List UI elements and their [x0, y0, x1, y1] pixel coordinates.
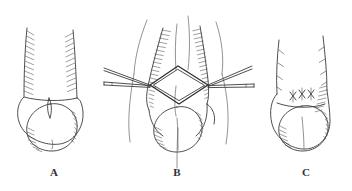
panel-b: B	[104, 16, 254, 178]
suture-x-3	[308, 88, 314, 100]
suture-x-1	[290, 90, 296, 102]
vein-markings-left	[277, 50, 284, 90]
body-contour-right-outer	[207, 104, 215, 124]
flap-hatching-right	[193, 26, 209, 104]
forceps-upper-right	[208, 66, 252, 87]
vein-markings-right	[319, 47, 327, 85]
suture-x-2	[299, 88, 305, 100]
skin-margin	[271, 90, 330, 149]
glans-outline	[279, 106, 328, 151]
flap-hatching-left	[147, 28, 171, 110]
midline-slit	[48, 98, 50, 118]
midline-slit-mirror	[49, 98, 51, 118]
suture-group	[290, 88, 314, 102]
shaft-midline	[175, 24, 177, 70]
figure-container: A	[0, 0, 352, 191]
shaft-outline	[277, 36, 327, 94]
traction-sutures	[129, 16, 228, 168]
surgical-illustration: A	[0, 0, 352, 191]
glans-midline	[302, 117, 304, 149]
panel-label-a: A	[50, 166, 58, 178]
lateral-hatching-right	[66, 33, 77, 92]
forceps-lower-right	[208, 84, 254, 88]
panel-label-c: C	[302, 166, 310, 178]
panel-label-b: B	[173, 166, 181, 178]
shaft-outline	[24, 28, 77, 98]
coronal-margin	[24, 97, 77, 101]
panel-a: A	[18, 28, 83, 178]
panel-c: C	[271, 36, 330, 178]
